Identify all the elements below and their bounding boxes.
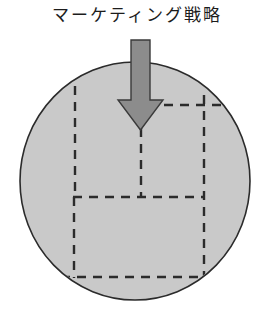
diagram-canvas [0,0,273,324]
marketing-strategy-figure: マーケティング戦略 [0,0,273,324]
